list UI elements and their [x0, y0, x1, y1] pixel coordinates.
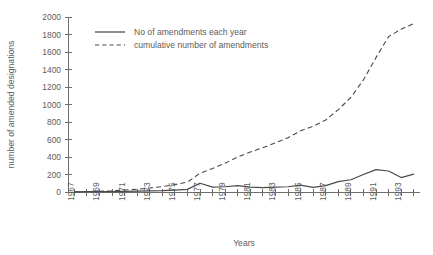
y-axis-group: 0200400600800100012001400160018002000: [42, 12, 71, 197]
y-axis-tick-label: 1000: [42, 100, 61, 110]
line-chart-plot: 0200400600800100012001400160018002000 19…: [0, 0, 433, 255]
y-axis-tick-label: 400: [47, 152, 61, 162]
legend-label[interactable]: cumulative number of amendments: [134, 40, 268, 50]
x-axis-tick-label: 1983: [267, 182, 277, 201]
x-axis-title: Years: [233, 238, 255, 248]
x-axis-tick-label: 1981: [242, 182, 252, 201]
y-axis-tick-label: 0: [56, 187, 61, 197]
y-axis-tick-label: 800: [47, 117, 61, 127]
x-axis-tick-label: 1991: [368, 182, 378, 201]
y-axis-title: number of amended designations: [6, 41, 16, 169]
y-axis-tick-label: 600: [47, 135, 61, 145]
y-axis-tick-label: 1800: [42, 30, 61, 40]
y-axis-tick-label: 200: [47, 170, 61, 180]
chart-container: 0200400600800100012001400160018002000 19…: [0, 0, 433, 255]
y-axis-tick-label: 1400: [42, 65, 61, 75]
x-axis-tick-label: 1989: [343, 182, 353, 201]
legend-label[interactable]: No of amendments each year: [134, 27, 247, 37]
x-axis-tick-label: 1979: [217, 182, 227, 201]
legend-group: No of amendments each yearcumulative num…: [95, 27, 268, 50]
y-axis-tick-label: 1200: [42, 82, 61, 92]
y-axis-tick-label: 2000: [42, 12, 61, 22]
y-axis-tick-label: 1600: [42, 47, 61, 57]
x-axis-tick-label: 1987: [318, 182, 328, 201]
x-axis-tick-label: 1993: [393, 182, 403, 201]
